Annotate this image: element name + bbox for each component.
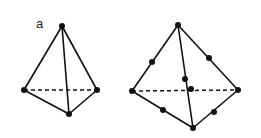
edge-apex-bottom (62, 26, 69, 114)
linear-tetrahedron (21, 23, 100, 117)
edge-apex-right (62, 26, 97, 90)
vertex-node-right (94, 87, 100, 93)
edge-apex-left (132, 25, 178, 91)
mid-edge-node (160, 107, 166, 113)
mid-edge-node (206, 55, 212, 61)
edge-left-bottom (24, 90, 69, 114)
hidden-edge (132, 90, 238, 91)
mid-edge-node (188, 86, 194, 92)
vertex-node-left (21, 87, 27, 93)
edge-apex-left (24, 26, 62, 90)
edge-right-bottom (193, 90, 238, 128)
panel-label: a (36, 16, 44, 31)
vertex-node-right (235, 87, 241, 93)
mid-edge-node (149, 59, 155, 65)
vertex-node-apex (175, 22, 181, 28)
vertex-node-left (129, 88, 135, 94)
quadratic-tetrahedron (129, 22, 241, 131)
mid-edge-node (182, 76, 188, 82)
vertex-node-bottom (190, 125, 196, 131)
mid-edge-node (211, 109, 217, 115)
vertex-node-bottom (66, 111, 72, 117)
edge-right-bottom (69, 90, 97, 114)
diagram-canvas: a (0, 0, 261, 138)
vertex-node-apex (59, 23, 65, 29)
